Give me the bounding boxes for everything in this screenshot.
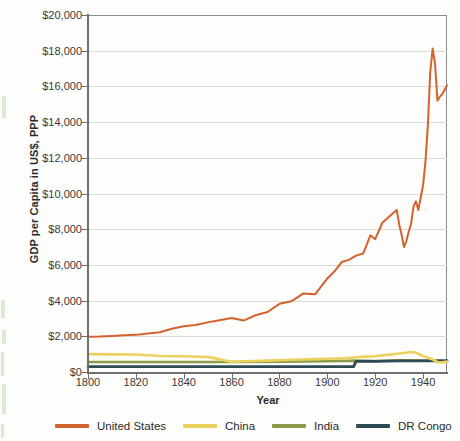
y-tickmark xyxy=(81,86,88,87)
chart-legend: United StatesChinaIndiaDR Congo xyxy=(55,420,455,432)
y-axis-tick-labels: $0$2,000$4,000$6,000$8,000$10,000$12,000… xyxy=(14,0,82,441)
legend-swatch-icon xyxy=(356,424,390,428)
y-tickmark xyxy=(81,372,88,373)
y-tick-label: $10,000 xyxy=(16,188,82,200)
y-tickmark xyxy=(81,122,88,123)
legend-item-india[interactable]: India xyxy=(272,420,339,432)
legend-item-dr-congo[interactable]: DR Congo xyxy=(356,420,452,432)
scan-artifact xyxy=(1,352,4,376)
y-tickmark xyxy=(81,301,88,302)
y-tickmark xyxy=(81,158,88,159)
y-tickmark xyxy=(81,194,88,195)
x-axis-line xyxy=(87,372,448,374)
scan-artifact xyxy=(1,300,5,318)
y-tick-label: $18,000 xyxy=(16,45,82,57)
y-tick-label: $12,000 xyxy=(16,152,82,164)
y-tick-label: $14,000 xyxy=(16,116,82,128)
x-axis-title: Year xyxy=(88,394,448,406)
legend-item-china[interactable]: China xyxy=(183,420,255,432)
y-tickmark xyxy=(81,229,88,230)
y-tick-label: $16,000 xyxy=(16,80,82,92)
x-tick-label: 1940 xyxy=(393,376,453,388)
scan-artifact xyxy=(2,384,6,414)
y-tick-label: $2,000 xyxy=(16,330,82,342)
legend-label: China xyxy=(225,420,255,432)
legend-label: DR Congo xyxy=(398,420,452,432)
legend-swatch-icon xyxy=(272,424,306,428)
y-tick-label: $4,000 xyxy=(16,295,82,307)
scan-artifact xyxy=(1,424,4,438)
y-tick-label: $8,000 xyxy=(16,223,82,235)
legend-swatch-icon xyxy=(55,424,89,428)
legend-label: India xyxy=(314,420,339,432)
y-tickmark xyxy=(81,336,88,337)
scan-artifact xyxy=(2,96,6,118)
series-line-united-states xyxy=(88,49,447,337)
plot-area xyxy=(88,15,447,372)
y-tickmark xyxy=(81,51,88,52)
chart-page: GDP per Capita in US$, PPP $0$2,000$4,00… xyxy=(0,0,460,441)
y-tick-label: $6,000 xyxy=(16,259,82,271)
y-tickmark xyxy=(81,265,88,266)
series-lines xyxy=(88,15,447,372)
legend-item-united-states[interactable]: United States xyxy=(55,420,166,432)
legend-label: United States xyxy=(97,420,166,432)
scan-artifact xyxy=(2,330,6,344)
legend-swatch-icon xyxy=(183,424,217,428)
y-tickmark xyxy=(81,15,88,16)
y-tick-label: $20,000 xyxy=(16,9,82,21)
